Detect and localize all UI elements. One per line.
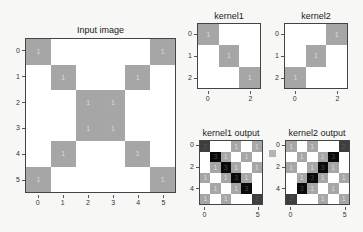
heatmap-cell: 1 — [231, 162, 241, 173]
heatmap-cell — [150, 116, 175, 142]
heatmap-cell — [306, 24, 327, 45]
heatmap-cell — [239, 45, 260, 66]
heatmap-cell: 1 — [286, 162, 297, 173]
heatmap-cell — [200, 162, 210, 173]
heatmap-cell — [286, 183, 297, 194]
heatmap-cell: 1 — [221, 173, 231, 184]
y-tick-label: 0 — [269, 30, 279, 37]
heatmap-cell: 1 — [101, 116, 126, 142]
heatmap-cell: 3 — [328, 152, 339, 163]
x-tick-label: 0 — [290, 95, 300, 102]
heatmap-cell: 1 — [297, 173, 308, 184]
heatmap-cell — [297, 194, 308, 205]
heatmap-cell — [326, 67, 347, 88]
heatmap-cell — [76, 141, 101, 167]
heatmap-cell — [286, 152, 297, 163]
heatmap-cell: 1 — [210, 183, 220, 194]
x-tick-label: 2 — [83, 199, 93, 206]
heatmap-cell — [125, 90, 150, 116]
heatmap-cell: 1 — [307, 183, 318, 194]
x-tick-label: 0 — [203, 95, 213, 102]
heatmap-cell: 1 — [26, 167, 51, 193]
heatmap-cell: 1 — [285, 67, 306, 88]
x-tick-label: 5 — [158, 199, 168, 206]
x-tick-label: 0 — [285, 211, 295, 218]
heatmap-cell — [239, 24, 260, 45]
heatmap-cell — [26, 90, 51, 116]
heatmap-cell: 3 — [241, 183, 251, 194]
heatmap-cell — [328, 173, 339, 184]
heatmap-cell: 1 — [339, 194, 350, 205]
heatmap-cell — [76, 65, 101, 91]
heatmap-cell — [210, 141, 220, 152]
kernel1-title: kernel1 — [197, 11, 261, 21]
heatmap-cell: 1 — [239, 67, 260, 88]
heatmap-cell — [221, 141, 231, 152]
heatmap-cell: 1 — [210, 162, 220, 173]
heatmap-cell: 1 — [328, 183, 339, 194]
heatmap-cell: 1 — [221, 194, 231, 205]
heatmap-cell: 1 — [200, 194, 210, 205]
heatmap-cell: 1 — [51, 141, 76, 167]
heatmap-cell: 1 — [150, 39, 175, 65]
legend-swatch — [269, 150, 276, 157]
input-image-panel: Input image 111111111111 — [0, 0, 190, 232]
x-tick-label: 2 — [332, 95, 342, 102]
heatmap-cell — [76, 167, 101, 193]
y-tick-label: 3 — [10, 124, 20, 131]
heatmap-cell — [101, 39, 126, 65]
heatmap-cell: 1 — [318, 152, 329, 163]
kernel2-output-title: kernel2 output — [278, 128, 356, 138]
heatmap-cell — [219, 24, 240, 45]
heatmap-cell — [51, 116, 76, 142]
heatmap-cell — [339, 162, 350, 173]
heatmap-cell — [241, 162, 251, 173]
x-tick-label: 0 — [199, 211, 209, 218]
kernel2-output-heatmap: 11211311311311311211 — [285, 140, 350, 205]
heatmap-cell: 2 — [200, 141, 210, 152]
input-image-title: Input image — [25, 25, 176, 35]
heatmap-cell — [231, 194, 241, 205]
kernel2-title: kernel2 — [284, 11, 348, 21]
heatmap-cell — [200, 183, 210, 194]
heatmap-cell — [101, 65, 126, 91]
y-tick-label: 0 — [10, 47, 20, 54]
heatmap-cell — [241, 194, 251, 205]
heatmap-cell — [125, 167, 150, 193]
heatmap-cell: 1 — [76, 116, 101, 142]
heatmap-cell: 1 — [76, 90, 101, 116]
heatmap-cell — [51, 90, 76, 116]
heatmap-cell — [125, 39, 150, 65]
heatmap-cell: 1 — [252, 141, 262, 152]
heatmap-cell: 1 — [219, 45, 240, 66]
heatmap-cell — [76, 39, 101, 65]
y-tick-label: 4 — [184, 185, 194, 192]
heatmap-cell — [318, 141, 329, 152]
heatmap-cell: 3 — [297, 183, 308, 194]
heatmap-cell — [101, 167, 126, 193]
heatmap-cell: 1 — [241, 173, 251, 184]
y-tick-label: 2 — [184, 163, 194, 170]
heatmap-cell: 1 — [198, 24, 219, 45]
heatmap-cell: 1 — [221, 152, 231, 163]
y-tick-label: 2 — [270, 163, 280, 170]
heatmap-cell — [51, 39, 76, 65]
heatmap-cell: 1 — [231, 141, 241, 152]
heatmap-cell: 2 — [339, 141, 350, 152]
y-tick-label: 2 — [269, 74, 279, 81]
heatmap-cell: 1 — [307, 141, 318, 152]
heatmap-cell — [306, 67, 327, 88]
kernel2-heatmap: 111 — [284, 23, 348, 89]
heatmap-cell: 1 — [328, 162, 339, 173]
heatmap-cell — [307, 194, 318, 205]
y-tick-label: 4 — [10, 150, 20, 157]
y-tick-label: 2 — [10, 99, 20, 106]
heatmap-cell — [328, 141, 339, 152]
heatmap-cell: 3 — [221, 162, 231, 173]
heatmap-cell — [297, 162, 308, 173]
heatmap-cell — [286, 173, 297, 184]
kernel1-heatmap: 111 — [197, 23, 261, 89]
heatmap-cell: 1 — [125, 141, 150, 167]
heatmap-cell: 2 — [286, 194, 297, 205]
heatmap-cell — [150, 141, 175, 167]
